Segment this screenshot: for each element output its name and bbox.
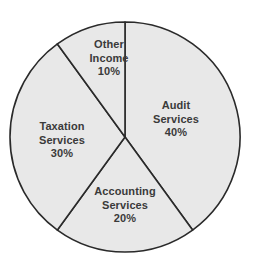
pie-chart: AuditServices40%AccountingServices20%Tax… [0,0,253,267]
pie-chart-svg [0,0,253,267]
pie-slices-group [10,22,240,252]
